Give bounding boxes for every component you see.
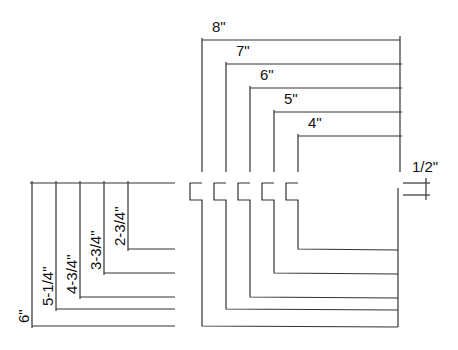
label-5-1-4in-height: 5-1/4" bbox=[39, 266, 56, 306]
top-dimension-labels: 8" 7" 6" 5" 4" bbox=[212, 18, 322, 131]
label-2-3-4in-height: 2-3/4" bbox=[111, 206, 128, 246]
label-4-3-4in-height: 4-3/4" bbox=[63, 254, 80, 294]
label-5in: 5" bbox=[284, 90, 298, 107]
top-dimension-lines bbox=[202, 36, 402, 172]
dimension-diagram: 8" 7" 6" 5" 4" 1/2" bbox=[0, 0, 458, 350]
notched-frames bbox=[190, 183, 398, 327]
notch-dimension: 1/2" bbox=[403, 158, 438, 200]
label-6in-height: 6" bbox=[15, 309, 32, 323]
label-6in: 6" bbox=[260, 66, 274, 83]
label-8in: 8" bbox=[212, 18, 226, 35]
label-half-inch: 1/2" bbox=[412, 158, 438, 175]
label-3-3-4in-height: 3-3/4" bbox=[87, 230, 104, 270]
label-7in: 7" bbox=[236, 42, 250, 59]
label-4in: 4" bbox=[308, 114, 322, 131]
